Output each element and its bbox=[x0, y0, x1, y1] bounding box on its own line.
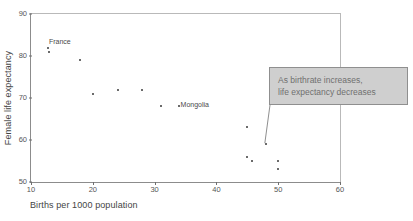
x-tick-mark bbox=[340, 182, 341, 185]
data-point bbox=[79, 59, 81, 61]
data-point bbox=[277, 160, 279, 162]
x-tick-mark bbox=[31, 182, 32, 185]
x-tick-label: 10 bbox=[27, 186, 35, 194]
x-tick-mark bbox=[216, 182, 217, 185]
point-label: Mongolia bbox=[181, 101, 209, 108]
data-point bbox=[117, 89, 119, 91]
point-label: France bbox=[49, 38, 71, 45]
x-tick-label: 40 bbox=[212, 186, 220, 194]
data-point bbox=[251, 160, 253, 162]
cropped-header-text bbox=[0, 0, 413, 1]
y-axis-title: Female life expectancy bbox=[2, 13, 14, 183]
trend-callout-box: As birthrate increases, life expectancy … bbox=[269, 67, 408, 105]
x-tick-label: 60 bbox=[336, 186, 344, 194]
y-tick-label: 80 bbox=[19, 52, 27, 60]
x-axis-title: Births per 1000 population bbox=[30, 200, 138, 210]
y-tick-mark bbox=[29, 56, 32, 57]
x-tick-label: 20 bbox=[89, 186, 97, 194]
y-tick-mark bbox=[29, 98, 32, 99]
x-tick-mark bbox=[155, 182, 156, 185]
data-point bbox=[246, 156, 248, 158]
x-tick-mark bbox=[278, 182, 279, 185]
scatter-chart-figure: Female life expectancy 50607080901020304… bbox=[0, 0, 413, 221]
callout-line-1: As birthrate increases, bbox=[278, 74, 400, 86]
data-point bbox=[92, 93, 94, 95]
data-point bbox=[160, 105, 162, 107]
y-tick-label: 70 bbox=[19, 94, 27, 102]
y-tick-mark bbox=[29, 140, 32, 141]
data-point bbox=[265, 143, 267, 145]
data-point bbox=[246, 126, 248, 128]
y-tick-mark bbox=[29, 14, 32, 15]
data-point bbox=[48, 51, 50, 53]
data-point bbox=[141, 89, 143, 91]
y-tick-label: 60 bbox=[19, 136, 27, 144]
x-tick-label: 50 bbox=[274, 186, 282, 194]
y-tick-label: 50 bbox=[19, 178, 27, 186]
x-tick-mark bbox=[93, 182, 94, 185]
data-point bbox=[277, 168, 279, 170]
y-tick-label: 90 bbox=[19, 10, 27, 18]
x-tick-label: 30 bbox=[150, 186, 158, 194]
data-point bbox=[47, 47, 49, 49]
callout-line-2: life expectancy decreases bbox=[278, 86, 400, 98]
